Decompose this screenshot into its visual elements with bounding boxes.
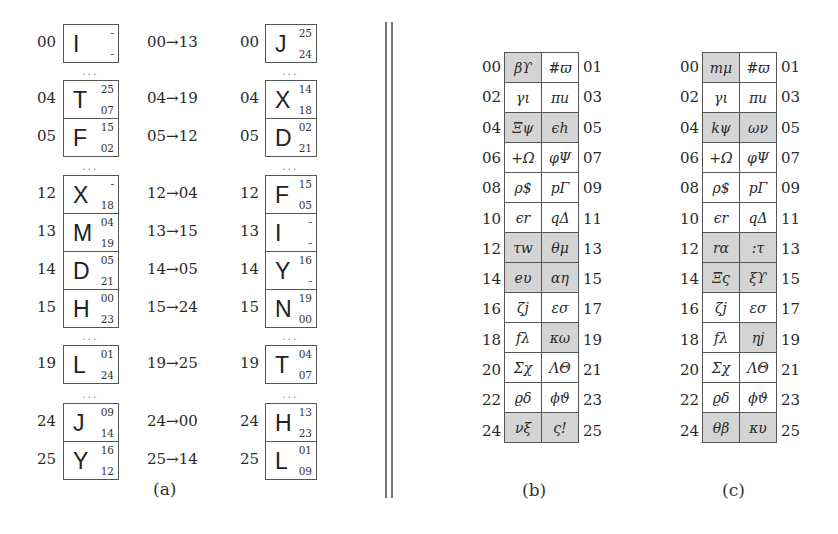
left-col-index: 05 (37, 129, 56, 144)
symbol-cell: ς! (542, 413, 579, 443)
row-right-label: 05 (583, 121, 602, 136)
cell-top-value: 15 (101, 122, 114, 133)
symbol-cell: φΨ (542, 143, 579, 173)
cell-letter: I (275, 222, 281, 245)
table-row: eυαη (505, 263, 579, 293)
mapping: 24→00 (147, 414, 198, 429)
table-row: fληj (703, 323, 777, 353)
cell-top-value: 04 (101, 217, 114, 228)
table-row: ϵrqΔ (703, 203, 777, 233)
cell-letter: F (275, 184, 289, 207)
symbol-cell: ων (740, 113, 777, 143)
cell-letter: X (73, 184, 88, 207)
cell-bottom-value: 24 (299, 49, 312, 60)
symbol-cell: γι (505, 83, 542, 113)
cell-letter: Y (73, 450, 88, 473)
cell-bottom-value: 02 (101, 143, 114, 154)
row-right-label: 11 (781, 212, 800, 227)
right-col-cell: D0221 (265, 118, 317, 157)
cell-top-value: 05 (101, 255, 114, 266)
table-row: mμ#ϖ (703, 53, 777, 83)
symbol-cell: γι (703, 83, 740, 113)
row-left-label: 18 (482, 333, 501, 348)
symbol-cell: ϵh (542, 113, 579, 143)
right-col-index: 00 (240, 35, 259, 50)
right-col-cell: H1323 (265, 403, 317, 442)
cell-bottom-value: 07 (299, 370, 312, 381)
left-col-cell: D0521 (63, 251, 119, 290)
cell-letter: Y (275, 260, 290, 283)
ellipsis: ... (82, 66, 99, 77)
symbol-cell: #ϖ (542, 53, 579, 83)
cell-letter: M (73, 222, 92, 245)
row-right-label: 23 (583, 393, 602, 408)
symbol-cell: ηj (740, 323, 777, 353)
cell-top-value: 01 (101, 349, 114, 360)
symbol-cell: ΛΘ (740, 353, 777, 383)
cell-top-value: 01 (299, 445, 312, 456)
symbol-cell: qΔ (542, 203, 579, 233)
row-left-label: 24 (680, 424, 699, 439)
row-right-label: 19 (781, 333, 800, 348)
row-right-label: 17 (583, 302, 602, 317)
symbol-cell: νξ (505, 413, 542, 443)
cell-bottom-value: 00 (299, 314, 312, 325)
symbol-cell: #ϖ (740, 53, 777, 83)
row-right-label: 23 (781, 393, 800, 408)
symbol-cell: ϵr (505, 203, 542, 233)
right-col-index: 13 (240, 224, 259, 239)
symbol-cell: ϱδ (703, 383, 740, 413)
symbol-cell: ϕϑ (740, 383, 777, 413)
left-col-cell: I-- (63, 24, 119, 63)
left-col-index: 13 (37, 224, 56, 239)
right-col-cell: J2524 (265, 24, 317, 63)
row-right-label: 03 (583, 90, 602, 105)
left-col-index: 24 (37, 414, 56, 429)
right-col-index: 24 (240, 414, 259, 429)
table-row: ζjεσ (505, 293, 579, 323)
cell-top-value: 04 (299, 349, 312, 360)
right-col-index: 19 (240, 356, 259, 371)
row-left-label: 16 (482, 302, 501, 317)
cell-bottom-value: 12 (101, 466, 114, 477)
right-col-index: 15 (240, 300, 259, 315)
cell-top-value: 25 (299, 28, 312, 39)
cell-bottom-value: 21 (299, 143, 312, 154)
row-left-label: 22 (482, 393, 501, 408)
cell-letter: H (275, 412, 292, 435)
cell-bottom-value: 18 (101, 200, 114, 211)
cell-bottom-value: 05 (299, 200, 312, 211)
symbol-cell: ρ$ (703, 173, 740, 203)
row-left-label: 12 (482, 242, 501, 257)
right-col-cell: N1900 (265, 289, 317, 328)
row-right-label: 11 (583, 212, 602, 227)
row-left-label: 20 (680, 363, 699, 378)
cell-bottom-value: - (308, 238, 312, 249)
cell-bottom-value: 21 (101, 276, 114, 287)
table-row: τwθμ (505, 233, 579, 263)
row-right-label: 01 (781, 60, 800, 75)
cell-top-value: 00 (101, 293, 114, 304)
left-col-index: 12 (37, 186, 56, 201)
row-left-label: 08 (482, 181, 501, 196)
ellipsis: ... (282, 161, 299, 172)
row-left-label: 02 (680, 90, 699, 105)
right-col-cell: X1418 (265, 80, 317, 119)
mapping: 14→05 (147, 262, 198, 277)
symbol-cell: qΔ (740, 203, 777, 233)
table-row: kψων (703, 113, 777, 143)
row-right-label: 07 (781, 151, 800, 166)
row-left-label: 16 (680, 302, 699, 317)
cell-top-value: 16 (299, 255, 312, 266)
cell-letter: J (73, 412, 85, 435)
right-col-index: 04 (240, 91, 259, 106)
row-left-label: 10 (680, 212, 699, 227)
mapping: 04→19 (147, 91, 198, 106)
row-right-label: 21 (583, 363, 602, 378)
mapping: 15→24 (147, 300, 198, 315)
cell-bottom-value: 23 (101, 314, 114, 325)
row-right-label: 09 (583, 181, 602, 196)
symbol-cell: ϕϑ (542, 383, 579, 413)
symbol-cell: εσ (740, 293, 777, 323)
divider-line-right (391, 22, 393, 498)
